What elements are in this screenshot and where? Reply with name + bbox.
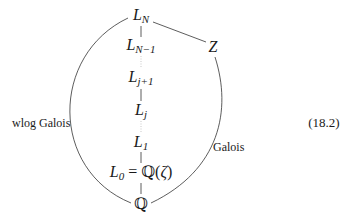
- node-L-0-cyclotomic: L0 = ℚ(ζ): [110, 164, 173, 182]
- diagram-edges: [0, 0, 348, 220]
- equation-number: (18.2): [308, 115, 339, 131]
- edge-label-galois: Galois: [213, 141, 244, 153]
- node-L-j: Lj: [135, 102, 147, 120]
- node-Z: Z: [209, 39, 218, 55]
- node-L-N: LN: [133, 7, 149, 25]
- node-L-1: L1: [134, 134, 148, 152]
- node-Q-rationals: ℚ: [134, 196, 148, 212]
- edge-label-wlog-galois: wlog Galois: [12, 117, 70, 129]
- node-L-N-minus-1: LN−1: [126, 37, 155, 55]
- field-tower-diagram: LN LN−1 Lj+1 Lj L1 L0 = ℚ(ζ) ℚ Z wlog Ga…: [0, 0, 348, 220]
- edge-LN-Z: [153, 22, 206, 42]
- node-L-j-plus-1: Lj+1: [129, 69, 154, 87]
